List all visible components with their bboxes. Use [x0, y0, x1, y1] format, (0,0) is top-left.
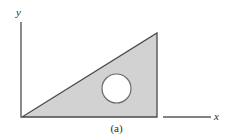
circular-hole: [102, 74, 131, 103]
right-triangle-plate: [22, 33, 157, 117]
x-axis-label: x: [214, 111, 219, 122]
figure-caption: (a): [0, 123, 233, 134]
figure-graphic: [0, 0, 233, 140]
figure-container: y x (a): [0, 0, 233, 140]
y-axis-label: y: [16, 7, 21, 18]
